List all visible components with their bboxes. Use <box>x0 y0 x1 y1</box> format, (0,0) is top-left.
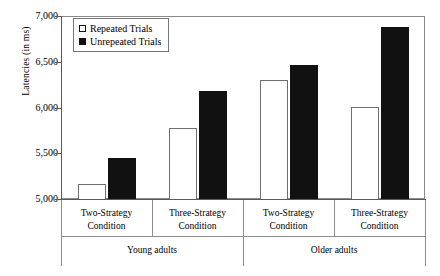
legend-label-unrepeated: Unrepeated Trials <box>90 35 161 48</box>
x-category-label: Three-StrategyCondition <box>152 207 243 232</box>
bar-chart: Latencies (in ms) 7,0006,5006,0005,5005,… <box>0 0 440 276</box>
legend-item-repeated: Repeated Trials <box>79 22 161 35</box>
legend-swatch-filled-icon <box>79 38 86 45</box>
y-tick-label: 6,000 <box>18 103 58 113</box>
x-group-rule <box>61 236 243 237</box>
y-tick-mark <box>55 108 62 109</box>
x-category-label: Two-StrategyCondition <box>243 207 334 232</box>
bar-repeated <box>260 80 288 199</box>
y-tick-mark <box>55 153 62 154</box>
x-axis-categories: Two-StrategyConditionThree-StrategyCondi… <box>61 200 426 276</box>
x-group-divider <box>425 236 426 266</box>
y-axis-ticks: 7,0006,5006,0005,5005,000 <box>14 0 58 276</box>
legend-label-repeated: Repeated Trials <box>90 22 153 35</box>
bar-unrepeated <box>290 65 318 200</box>
y-tick-mark <box>55 16 62 17</box>
y-tick-label: 5,500 <box>18 148 58 158</box>
x-group-label: Older adults <box>243 244 425 256</box>
x-group-rule <box>243 236 425 237</box>
x-group-label: Young adults <box>61 244 243 256</box>
legend-item-unrepeated: Unrepeated Trials <box>79 35 161 48</box>
y-tick-label: 6,500 <box>18 57 58 67</box>
y-tick-label: 5,000 <box>18 194 58 204</box>
bar-unrepeated <box>108 158 136 199</box>
bar-repeated <box>169 128 197 199</box>
bar-unrepeated <box>381 27 409 199</box>
bar-unrepeated <box>199 91 227 199</box>
y-tick-mark <box>55 199 62 200</box>
x-category-label: Three-StrategyCondition <box>334 207 425 232</box>
bar-repeated <box>78 184 106 199</box>
legend-swatch-open-icon <box>79 25 86 32</box>
y-tick-mark <box>55 62 62 63</box>
bar-repeated <box>351 107 379 199</box>
x-category-divider <box>425 200 426 236</box>
y-tick-label: 7,000 <box>18 11 58 21</box>
legend: Repeated Trials Unrepeated Trials <box>73 18 169 52</box>
x-category-label: Two-StrategyCondition <box>61 207 152 232</box>
